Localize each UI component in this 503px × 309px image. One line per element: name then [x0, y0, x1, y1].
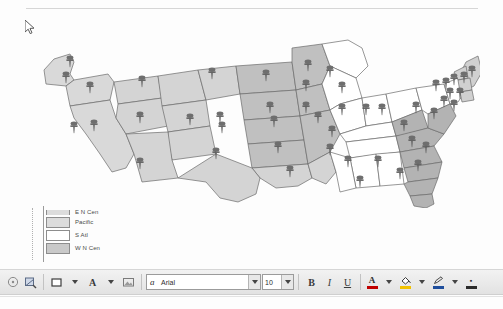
svg-text:a: a — [150, 277, 155, 287]
wordart-dropdown[interactable] — [102, 273, 119, 291]
line-color-dropdown[interactable] — [446, 273, 463, 291]
legend-selection-guide — [32, 208, 33, 260]
map-legend[interactable]: E N Cen Pacific S Atl W N Cen — [46, 210, 154, 260]
legend-label: W N Cen — [75, 244, 100, 253]
legend-item-1[interactable]: Pacific — [46, 217, 154, 228]
font-name-value: Arial — [161, 279, 175, 286]
legend-label: Pacific — [75, 218, 93, 227]
legend-selection-bar — [43, 206, 44, 262]
italic-label: I — [328, 277, 331, 288]
select-objects-button[interactable] — [4, 273, 21, 291]
wordart-button[interactable]: A — [84, 273, 101, 291]
toolbar-separator — [298, 274, 299, 290]
font-color-button[interactable]: A — [365, 273, 379, 291]
font-color-swatch — [367, 286, 378, 289]
legend-swatch — [46, 230, 70, 241]
bottom-divider — [0, 296, 503, 297]
bold-button[interactable]: B — [303, 273, 320, 291]
font-icon: a — [149, 277, 159, 287]
line-color-swatch — [433, 286, 444, 289]
legend-swatch — [46, 210, 70, 215]
chevron-down-icon — [252, 280, 258, 284]
document-canvas: E N Cen Pacific S Atl W N Cen — [0, 0, 503, 309]
fill-color-swatch — [400, 286, 411, 289]
border-color-button[interactable]: ▪ — [464, 273, 478, 291]
legend-swatch — [46, 243, 70, 254]
border-color-glyph: ▪ — [470, 276, 472, 285]
chevron-down-icon — [452, 280, 458, 284]
font-color-label: A — [369, 276, 376, 285]
chevron-down-icon — [108, 280, 114, 284]
us-map-graphic[interactable] — [30, 22, 480, 208]
fill-color-dropdown[interactable] — [413, 273, 430, 291]
legend-swatch — [46, 217, 70, 228]
top-divider — [26, 8, 478, 9]
drawing-formatting-toolbar: A a Arial 10 — [0, 269, 503, 295]
legend-label: S Atl — [75, 231, 88, 240]
font-size-combobox[interactable]: 10 — [262, 274, 294, 290]
font-size-dropdown-arrow[interactable] — [281, 275, 293, 289]
legend-label: E N Cen — [75, 210, 98, 215]
paint-bucket-icon — [400, 276, 411, 285]
legend-item-2[interactable]: S Atl — [46, 230, 154, 241]
toolbar-separator — [43, 274, 44, 290]
chevron-down-icon — [72, 280, 78, 284]
chevron-down-icon — [419, 280, 425, 284]
insert-picture-button[interactable] — [120, 273, 137, 291]
font-name-dropdown-arrow[interactable] — [248, 275, 260, 289]
line-color-button[interactable] — [431, 273, 445, 291]
chevron-down-icon — [386, 280, 392, 284]
wordart-label: A — [89, 277, 96, 288]
fill-color-button[interactable] — [398, 273, 412, 291]
font-name-combobox[interactable]: a Arial — [146, 274, 261, 290]
border-color-swatch — [466, 286, 477, 289]
italic-button[interactable]: I — [321, 273, 338, 291]
toolbar-separator — [141, 274, 142, 290]
rectangle-shape-button[interactable] — [48, 273, 65, 291]
bold-label: B — [308, 277, 315, 288]
chevron-down-icon — [285, 280, 291, 284]
toolbar-separator — [360, 274, 361, 290]
font-size-value: 10 — [265, 279, 273, 286]
rectangle-shape-dropdown[interactable] — [66, 273, 83, 291]
underline-button[interactable]: U — [339, 273, 356, 291]
font-color-dropdown[interactable] — [380, 273, 397, 291]
legend-item-0[interactable]: E N Cen — [46, 210, 154, 215]
underline-label: U — [344, 277, 351, 288]
legend-item-3[interactable]: W N Cen — [46, 243, 154, 254]
pencil-icon — [433, 276, 444, 285]
fill-effects-button[interactable] — [22, 273, 39, 291]
